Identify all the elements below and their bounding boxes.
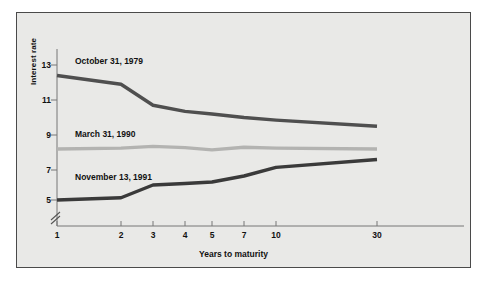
y-tick-label: 11 bbox=[37, 95, 51, 105]
x-tick-label: 5 bbox=[202, 230, 222, 240]
x-tick-label: 30 bbox=[367, 230, 387, 240]
y-tick-label: 7 bbox=[37, 165, 51, 175]
y-tick-label: 5 bbox=[37, 195, 51, 205]
series-annotation-0: October 31, 1979 bbox=[75, 56, 143, 66]
x-axis-title: Years to maturity bbox=[199, 249, 268, 259]
x-tick-label: 3 bbox=[143, 230, 163, 240]
x-tick-label: 1 bbox=[47, 230, 67, 240]
series-line-1 bbox=[57, 146, 377, 150]
series-annotation-1: March 31, 1990 bbox=[75, 129, 135, 139]
y-tick-label: 13 bbox=[37, 60, 51, 70]
series-line-0 bbox=[57, 76, 377, 127]
chart-figure: Interest rate Years to maturity 5791113 … bbox=[16, 12, 471, 268]
series-annotation-2: November 13, 1991 bbox=[75, 172, 152, 182]
y-tick-label: 9 bbox=[37, 130, 51, 140]
x-tick-label: 10 bbox=[266, 230, 286, 240]
x-tick-label: 7 bbox=[234, 230, 254, 240]
x-tick-label: 4 bbox=[175, 230, 195, 240]
x-tick-label: 2 bbox=[111, 230, 131, 240]
